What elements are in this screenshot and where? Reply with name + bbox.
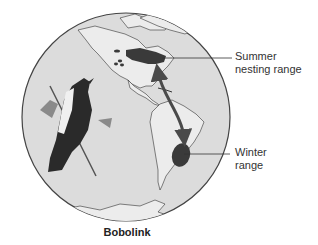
summer-label-line2: nesting range [235,63,302,76]
summer-range-spot [118,60,122,63]
summer-range-spot [120,64,124,67]
winter-label-line2: range [235,159,267,172]
winter-label: Winter range [235,146,267,172]
diagram-canvas [0,0,318,245]
figure-caption: Bobolink [0,226,254,238]
summer-range-spot [114,49,120,52]
winter-label-line1: Winter [235,146,267,159]
summer-range-spot [114,63,118,66]
summer-label-line1: Summer [235,50,302,63]
summer-label: Summer nesting range [235,50,302,76]
